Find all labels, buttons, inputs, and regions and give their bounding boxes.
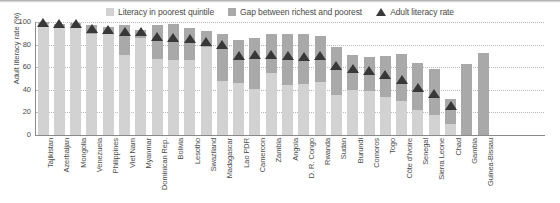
legend-item-gap: Gap between richest and poorest [228,7,362,17]
bar-column[interactable] [217,22,228,135]
bar-segment-poorest-quintile [445,124,456,135]
bar-segment-poorest-quintile [429,115,440,135]
bar-segment-poorest-quintile [347,90,358,135]
bar-column[interactable] [478,22,489,135]
bar-column[interactable] [396,22,407,135]
adult-literacy-marker [86,24,98,33]
adult-literacy-marker [184,34,196,43]
legend-swatch-icon [228,8,236,16]
bar-column[interactable] [54,22,65,135]
adult-literacy-marker [347,64,359,73]
bar-column[interactable] [135,22,146,135]
adult-literacy-marker [265,50,277,59]
y-axis-tick-labels: 020406080100 [0,22,34,136]
bar-column[interactable] [347,22,358,135]
bar-segment-gap [478,53,489,135]
plot-area [36,22,544,135]
adult-literacy-marker [363,66,375,75]
bar-column[interactable] [249,22,260,135]
x-axis-category-label: Cameroon [258,138,267,172]
x-axis-category-label: Mongolia [79,138,88,168]
bar-segment-poorest-quintile [70,25,81,135]
x-axis-category-label: Burundi [356,138,365,163]
bar-column[interactable] [168,22,179,135]
bar-column[interactable] [86,22,97,135]
legend-label: Adult literacy rate [390,7,454,17]
bar-column[interactable] [233,22,244,135]
bar-column[interactable] [364,22,375,135]
bar-column[interactable] [298,22,309,135]
adult-literacy-marker [37,18,49,27]
bar-column[interactable] [429,22,440,135]
bar-column[interactable] [119,22,130,135]
x-axis-category-label: Philippines [111,138,120,173]
bar-segment-poorest-quintile [266,73,277,135]
bar-column[interactable] [152,22,163,135]
bar-segment-gap [152,25,163,59]
adult-literacy-marker [445,101,457,110]
x-axis-category-label: Angola [291,138,300,161]
bar-column[interactable] [282,22,293,135]
bar-column[interactable] [331,22,342,135]
x-axis-category-label: Myanmar [144,138,153,169]
bar-segment-gap [168,24,179,60]
adult-literacy-marker [200,37,212,46]
bar-column[interactable] [315,22,326,135]
x-axis-category-label: Comoros [372,138,381,168]
x-axis-line [35,135,545,136]
bar-column[interactable] [461,22,472,135]
bar-segment-poorest-quintile [152,59,163,135]
x-axis-category-label: Lao PDR [242,138,251,168]
adult-literacy-marker [298,52,310,61]
triangle-marker-icon [376,8,386,16]
adult-literacy-marker [330,61,342,70]
legend-label: Gap between richest and poorest [240,7,362,17]
bar-segment-poorest-quintile [315,82,326,135]
bar-segment-gap [331,47,342,96]
bar-column[interactable] [70,22,81,135]
bar-segment-poorest-quintile [331,95,342,135]
bar-segment-poorest-quintile [364,91,375,135]
bar-segment-poorest-quintile [233,83,244,135]
adult-literacy-marker [379,70,391,79]
bar-segment-gap [233,40,244,83]
y-axis-tick-label: 80 [23,41,31,49]
bar-segment-gap [184,28,195,61]
bar-segment-poorest-quintile [135,38,146,135]
adult-literacy-marker [119,27,131,36]
legend-item-adult-literacy: Adult literacy rate [376,7,454,17]
bar-column[interactable] [412,22,423,135]
bar-column[interactable] [266,22,277,135]
y-axis-tick-label: 40 [23,86,31,94]
adult-literacy-marker [135,27,147,36]
bar-column[interactable] [103,22,114,135]
bar-segment-poorest-quintile [168,60,179,135]
bar-segment-poorest-quintile [54,27,65,135]
bar-column[interactable] [38,22,49,135]
bar-column[interactable] [380,22,391,135]
x-axis-category-label: Sudan [339,138,348,159]
x-axis-category-labels: TajikistanAzerbaijanMongoliaVenezuelaPhi… [36,138,544,202]
adult-literacy-marker [102,25,114,34]
bar-column[interactable] [201,22,212,135]
adult-literacy-marker [396,75,408,84]
adult-literacy-marker [151,32,163,41]
bar-segment-poorest-quintile [201,47,212,135]
bar-segment-poorest-quintile [249,89,260,135]
adult-literacy-marker [167,33,179,42]
x-axis-category-label: Côte d'Ivoire [405,138,414,179]
legend-item-poorest-quintile: Literacy in poorest quintile [106,7,214,17]
x-axis-category-label: Swaziland [209,138,218,171]
x-axis-category-label: Lesotho [193,138,202,164]
bar-column[interactable] [445,22,456,135]
x-axis-category-label: Bolivia [176,138,185,159]
x-axis-category-label: Dominican Rep. [160,138,169,190]
adult-literacy-marker [216,40,228,49]
bar-column[interactable] [184,22,195,135]
x-axis-category-label: Viet Nam [128,138,137,168]
adult-literacy-marker [53,19,65,28]
x-axis-category-label: Togo [388,138,397,154]
x-axis-category-label: Azerbaijan [62,138,71,172]
bar-segment-poorest-quintile [298,84,309,135]
legend-swatch-icon [106,8,114,16]
